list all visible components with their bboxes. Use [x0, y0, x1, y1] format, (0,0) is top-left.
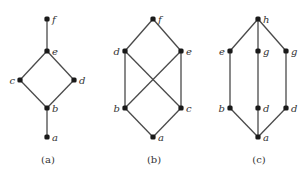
node-label-e: e — [52, 46, 58, 57]
node-h — [255, 16, 260, 21]
node-label-b: b — [114, 103, 120, 114]
edge-f-d — [125, 19, 153, 51]
node-label-h: h — [263, 14, 269, 25]
node-c — [17, 77, 22, 82]
lattice-diagrams-figure: fecdba(a)fdebca(b)heggbdda(c) — [0, 0, 306, 176]
caption-c: (c) — [252, 154, 266, 165]
edge-b-a — [125, 108, 153, 137]
node-label-f: f — [157, 14, 164, 25]
edge-c-b — [20, 80, 47, 108]
node-a — [44, 134, 49, 139]
node-e — [178, 48, 183, 53]
node-d — [71, 77, 76, 82]
node-label-c: c — [186, 103, 192, 114]
node-b — [227, 105, 232, 110]
node-d2 — [283, 105, 288, 110]
node-label-b: b — [52, 103, 58, 114]
hasse-diagram-c: heggbdda(c) — [219, 14, 298, 166]
node-label-c: c — [9, 75, 15, 86]
node-b — [122, 105, 127, 110]
node-label-e: e — [186, 46, 192, 57]
edge-h-e — [230, 19, 258, 51]
node-e — [227, 48, 232, 53]
node-a — [150, 134, 155, 139]
node-g1 — [255, 48, 260, 53]
node-label-d2: d — [291, 103, 297, 114]
node-label-d: d — [79, 75, 85, 86]
caption-a: (a) — [41, 154, 55, 165]
node-label-d: d — [114, 46, 120, 57]
node-label-a: a — [158, 132, 164, 143]
node-d1 — [255, 105, 260, 110]
node-c — [178, 105, 183, 110]
node-e — [44, 48, 49, 53]
node-f — [44, 16, 49, 21]
node-a — [255, 134, 260, 139]
node-label-a: a — [263, 132, 269, 143]
node-label-d1: d — [263, 103, 269, 114]
node-g2 — [283, 48, 288, 53]
caption-b: (b) — [147, 154, 161, 165]
hasse-diagram-a: fecdba(a) — [9, 14, 85, 166]
node-label-e: e — [219, 46, 225, 57]
edge-e-c — [20, 51, 47, 80]
node-label-a: a — [52, 132, 58, 143]
node-label-b: b — [219, 103, 225, 114]
node-label-f: f — [51, 14, 58, 25]
hasse-diagram-b: fdebca(b) — [114, 14, 192, 166]
node-label-g1: g — [263, 46, 269, 57]
node-label-g2: g — [291, 46, 297, 57]
node-d — [122, 48, 127, 53]
node-f — [150, 16, 155, 21]
diagram-layer: fecdba(a)fdebca(b)heggbdda(c) — [9, 14, 297, 166]
edge-b-a — [230, 108, 258, 137]
node-b — [44, 105, 49, 110]
